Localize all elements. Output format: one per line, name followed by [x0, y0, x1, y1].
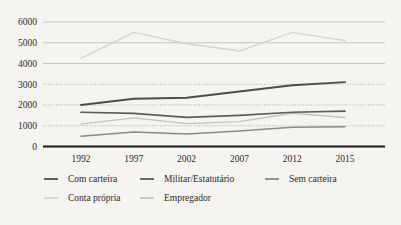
y-tick-label-6000: 6000 [18, 17, 37, 27]
x-tick-label-1992: 1992 [72, 154, 91, 164]
y-tick-label-4000: 4000 [18, 59, 37, 69]
x-tick-label-2007: 2007 [230, 154, 249, 164]
y-tick-label-0: 0 [32, 142, 37, 152]
y-tick-label-2000: 2000 [18, 100, 37, 110]
legend-label-empregador: Empregador [164, 193, 212, 203]
chart-canvas: 0100020003000400050006000 19921997200220… [0, 0, 401, 225]
legend-label-sem-carteira: Sem carteira [289, 174, 338, 184]
x-tick-label-2002: 2002 [177, 154, 196, 164]
line-chart-figure: 0100020003000400050006000 19921997200220… [0, 0, 401, 225]
legend-label-com-carteira: Com carteira [68, 174, 118, 184]
x-tick-label-2012: 2012 [283, 154, 302, 164]
legend-label-conta-pr-pria: Conta própria [68, 193, 121, 203]
chart-background [0, 0, 401, 225]
y-tick-label-5000: 5000 [18, 38, 37, 48]
x-tick-label-2015: 2015 [336, 154, 355, 164]
legend-label-militar-estatut-rio: Militar/Estatutário [164, 174, 234, 184]
y-tick-label-1000: 1000 [18, 121, 37, 131]
x-tick-label-1997: 1997 [124, 154, 143, 164]
y-tick-label-3000: 3000 [18, 80, 37, 90]
